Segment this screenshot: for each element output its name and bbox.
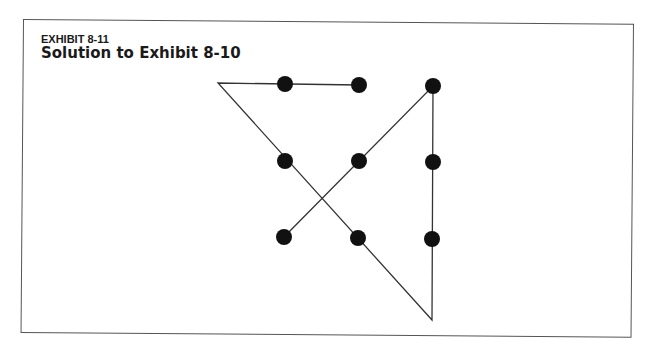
solution-path (218, 83, 433, 320)
dot-r1-c2 (425, 154, 441, 170)
dot-r0-c1 (351, 77, 367, 93)
dot-r0-c0 (277, 76, 293, 92)
dot-r2-c2 (424, 231, 440, 247)
dot-r2-c0 (276, 229, 292, 245)
dot-r0-c2 (425, 78, 441, 94)
dot-r1-c0 (277, 153, 293, 169)
nine-dot-diagram (0, 0, 661, 360)
dot-r2-c1 (350, 230, 366, 246)
dot-r1-c1 (351, 153, 367, 169)
dot-grid (276, 76, 441, 247)
